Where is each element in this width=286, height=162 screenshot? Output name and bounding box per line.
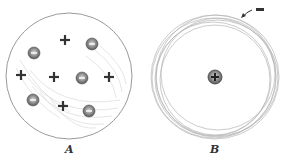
electron-pointer-arrow [241,10,252,18]
panel-b-nuclear-atom [151,8,279,139]
panel-b-label: B [210,143,219,156]
electron-icon [27,94,39,106]
nucleus [208,70,222,84]
atom-models-diagram [0,0,286,162]
electron-icon [28,47,40,59]
panel-a-plum-pudding [6,13,132,139]
plus-icon [49,72,59,82]
panel-a-label: A [65,143,74,156]
electron-icon [83,105,95,117]
electron-icon [86,38,98,50]
electron-icon [76,72,88,84]
minus-charge-label [256,8,264,11]
plus-icon [60,35,70,45]
